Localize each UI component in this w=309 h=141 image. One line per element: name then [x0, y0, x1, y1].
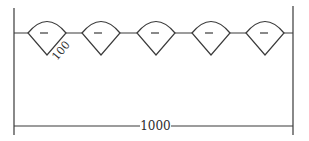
total-span-label: 1000	[140, 119, 171, 133]
sector-element-4	[192, 22, 230, 56]
diagram-canvas: 100 1000	[0, 0, 309, 141]
sector-element-3	[137, 22, 175, 56]
total-dimension: 1000	[14, 119, 293, 133]
sector-element-2	[82, 22, 120, 56]
sector-element-5	[246, 22, 284, 56]
